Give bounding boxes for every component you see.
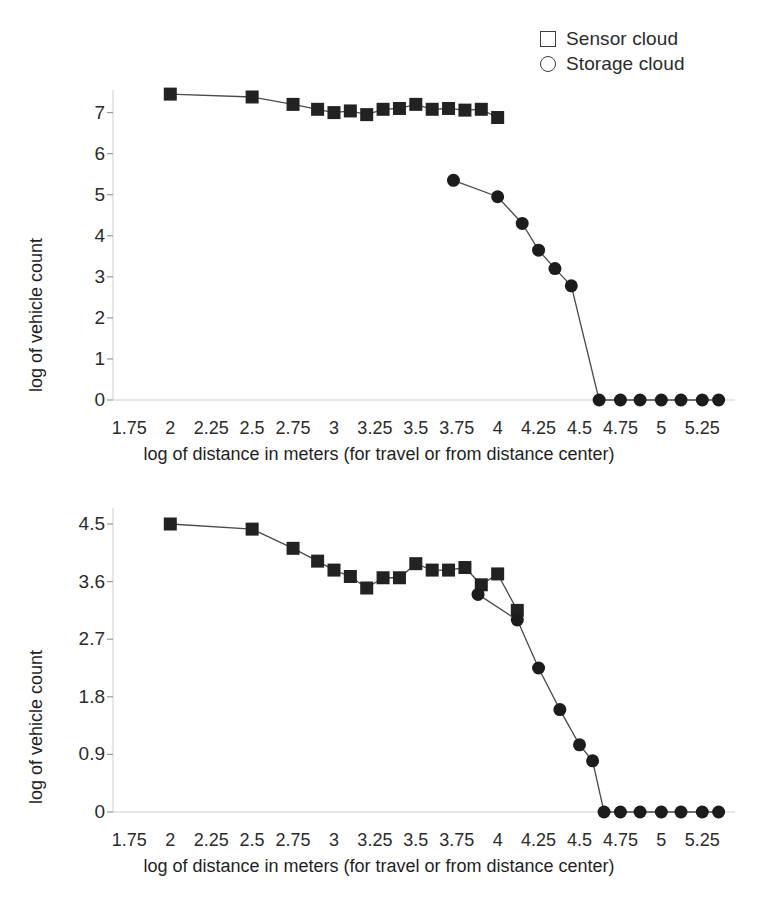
data-point-sensor-cloud <box>442 564 455 577</box>
data-point-storage-cloud <box>553 703 566 716</box>
data-point-storage-cloud <box>598 806 611 819</box>
y-axis-tick-label: 7 <box>94 102 105 124</box>
x-axis-tick-label: 2 <box>165 418 175 439</box>
y-axis-tick-label: 0 <box>94 389 105 411</box>
data-point-sensor-cloud <box>344 570 357 583</box>
series-line-storage-cloud <box>478 594 719 812</box>
data-point-sensor-cloud <box>360 582 373 595</box>
data-point-sensor-cloud <box>426 103 439 116</box>
chart-panel-bottom: 00.91.82.73.64.5log of vehicle count1.75… <box>0 490 758 920</box>
data-point-sensor-cloud <box>164 88 177 101</box>
y-axis-tick-label: 1.8 <box>79 686 105 708</box>
y-axis-tick-label: 2.7 <box>79 628 105 650</box>
x-axis-tick-label: 4.75 <box>603 418 638 439</box>
data-point-storage-cloud <box>634 806 647 819</box>
y-axis-title: log of vehicle count <box>26 238 47 392</box>
plot-area-bottom: 00.91.82.73.64.5log of vehicle count1.75… <box>0 490 758 920</box>
legend-label-sensor-cloud: Sensor cloud <box>566 28 678 50</box>
data-point-storage-cloud <box>614 806 627 819</box>
x-axis-tick-label: 1.75 <box>112 830 147 851</box>
x-axis-tick-label: 3.5 <box>403 418 428 439</box>
x-axis-tick-label: 4.5 <box>567 418 592 439</box>
data-point-storage-cloud <box>593 394 606 407</box>
data-point-sensor-cloud <box>377 571 390 584</box>
chart-panel-top: 01234567log of vehicle count1.7522.252.5… <box>0 60 758 480</box>
data-point-sensor-cloud <box>246 523 259 536</box>
data-point-storage-cloud <box>548 262 561 275</box>
data-point-storage-cloud <box>511 614 524 627</box>
x-axis-tick-label: 3 <box>329 418 339 439</box>
data-point-storage-cloud <box>614 394 627 407</box>
data-point-storage-cloud <box>491 190 504 203</box>
x-axis-tick-label: 4.25 <box>521 830 556 851</box>
data-point-sensor-cloud <box>393 571 406 584</box>
x-axis-tick-label: 5.25 <box>685 830 720 851</box>
y-axis-title: log of vehicle count <box>26 650 47 804</box>
series-line-storage-cloud <box>453 180 718 400</box>
data-point-sensor-cloud <box>360 108 373 121</box>
y-axis-tick-label: 1 <box>94 348 105 370</box>
y-axis-tick-label: 4 <box>94 225 105 247</box>
x-axis-tick-label: 5 <box>656 418 666 439</box>
y-axis-tick-label: 3 <box>94 266 105 288</box>
data-point-storage-cloud <box>447 174 460 187</box>
data-point-sensor-cloud <box>164 518 177 531</box>
data-point-sensor-cloud <box>377 103 390 116</box>
x-axis-tick-label: 2 <box>165 830 175 851</box>
square-outline-icon <box>540 31 556 47</box>
data-point-sensor-cloud <box>327 106 340 119</box>
data-point-sensor-cloud <box>491 111 504 124</box>
x-axis-tick-label: 5 <box>656 830 666 851</box>
y-axis-tick-label: 4.5 <box>79 513 105 535</box>
data-point-storage-cloud <box>516 217 529 230</box>
data-point-sensor-cloud <box>426 564 439 577</box>
y-axis-tick-label: 0 <box>94 801 105 823</box>
y-axis-tick-label: 0.9 <box>79 743 105 765</box>
x-axis-tick-label: 3.25 <box>357 830 392 851</box>
data-point-sensor-cloud <box>287 98 300 111</box>
data-point-storage-cloud <box>532 662 545 675</box>
x-axis-tick-label: 3.75 <box>439 418 474 439</box>
legend-item-sensor-cloud: Sensor cloud <box>540 28 685 50</box>
data-point-sensor-cloud <box>344 104 357 117</box>
x-axis-tick-label: 2.75 <box>276 830 311 851</box>
x-axis-tick-label: 3.5 <box>403 830 428 851</box>
x-axis-tick-label: 2.75 <box>276 418 311 439</box>
data-point-storage-cloud <box>696 394 709 407</box>
x-axis-tick-label: 4 <box>493 830 503 851</box>
x-axis-title: log of distance in meters (for travel or… <box>0 444 758 465</box>
x-axis-tick-label: 4.25 <box>521 418 556 439</box>
data-point-sensor-cloud <box>287 542 300 555</box>
data-point-sensor-cloud <box>327 564 340 577</box>
x-axis-tick-label: 2.25 <box>194 418 229 439</box>
y-axis-tick-label: 6 <box>94 143 105 165</box>
y-axis-tick-label: 5 <box>94 184 105 206</box>
x-axis-tick-label: 4.75 <box>603 830 638 851</box>
x-axis-tick-label: 1.75 <box>112 418 147 439</box>
data-point-sensor-cloud <box>311 103 324 116</box>
data-point-storage-cloud <box>696 806 709 819</box>
y-axis-tick-label: 3.6 <box>79 571 105 593</box>
data-point-storage-cloud <box>573 738 586 751</box>
data-point-sensor-cloud <box>475 103 488 116</box>
data-point-sensor-cloud <box>409 98 422 111</box>
data-point-storage-cloud <box>532 244 545 257</box>
data-point-sensor-cloud <box>409 557 422 570</box>
data-point-sensor-cloud <box>311 555 324 568</box>
data-point-storage-cloud <box>586 754 599 767</box>
data-point-storage-cloud <box>674 394 687 407</box>
data-point-sensor-cloud <box>442 102 455 115</box>
data-point-storage-cloud <box>565 279 578 292</box>
y-axis-tick-label: 2 <box>94 307 105 329</box>
data-point-sensor-cloud <box>491 567 504 580</box>
data-point-storage-cloud <box>472 588 485 601</box>
x-axis-tick-label: 2.5 <box>240 418 265 439</box>
plot-area-top: 01234567log of vehicle count1.7522.252.5… <box>0 60 758 480</box>
x-axis-tick-label: 3.25 <box>357 418 392 439</box>
x-axis-tick-label: 2.5 <box>240 830 265 851</box>
x-axis-tick-label: 4.5 <box>567 830 592 851</box>
data-point-storage-cloud <box>655 806 668 819</box>
data-point-storage-cloud <box>674 806 687 819</box>
data-point-sensor-cloud <box>458 561 471 574</box>
data-point-storage-cloud <box>634 394 647 407</box>
